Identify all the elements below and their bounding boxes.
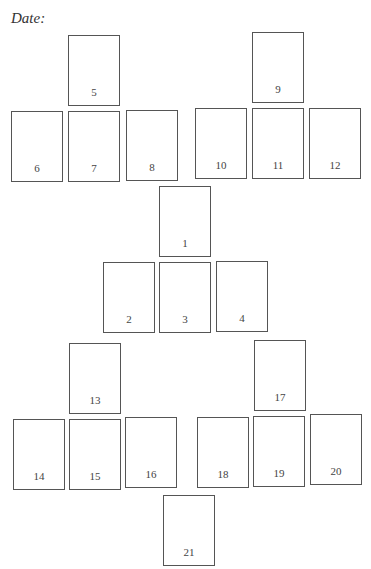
card-position-number: 7 — [69, 162, 119, 174]
card-slot-13[interactable]: 13 — [69, 343, 121, 414]
card-position-number: 8 — [127, 161, 177, 173]
cropped-title — [0, 0, 371, 2]
card-slot-4[interactable]: 4 — [216, 261, 268, 332]
card-slot-6[interactable]: 6 — [11, 111, 63, 182]
card-slot-2[interactable]: 2 — [103, 262, 155, 333]
card-slot-9[interactable]: 9 — [252, 32, 304, 103]
card-slot-12[interactable]: 12 — [309, 108, 361, 179]
card-slot-3[interactable]: 3 — [159, 262, 211, 333]
card-position-number: 21 — [164, 546, 214, 558]
card-position-number: 6 — [12, 162, 62, 174]
card-position-number: 4 — [217, 312, 267, 324]
date-label: Date: — [11, 9, 45, 27]
card-slot-17[interactable]: 17 — [254, 340, 306, 411]
card-slot-7[interactable]: 7 — [68, 111, 120, 182]
card-position-number: 20 — [311, 465, 361, 477]
card-slot-14[interactable]: 14 — [13, 419, 65, 490]
card-position-number: 12 — [310, 159, 360, 171]
card-position-number: 10 — [196, 159, 246, 171]
card-position-number: 15 — [70, 470, 120, 482]
card-slot-18[interactable]: 18 — [197, 417, 249, 488]
card-slot-16[interactable]: 16 — [125, 417, 177, 488]
card-slot-21[interactable]: 21 — [163, 495, 215, 566]
card-position-number: 19 — [254, 467, 304, 479]
card-position-number: 18 — [198, 468, 248, 480]
card-position-number: 11 — [253, 159, 303, 171]
card-position-number: 5 — [69, 86, 119, 98]
card-slot-11[interactable]: 11 — [252, 108, 304, 179]
card-slot-10[interactable]: 10 — [195, 108, 247, 179]
card-slot-5[interactable]: 5 — [68, 35, 120, 106]
card-position-number: 3 — [160, 313, 210, 325]
card-slot-15[interactable]: 15 — [69, 419, 121, 490]
card-position-number: 1 — [160, 237, 210, 249]
card-slot-20[interactable]: 20 — [310, 414, 362, 485]
card-slot-1[interactable]: 1 — [159, 186, 211, 257]
card-position-number: 16 — [126, 468, 176, 480]
card-position-number: 13 — [70, 394, 120, 406]
card-position-number: 9 — [253, 83, 303, 95]
card-position-number: 14 — [14, 470, 64, 482]
card-position-number: 17 — [255, 391, 305, 403]
card-slot-19[interactable]: 19 — [253, 416, 305, 487]
card-position-number: 2 — [104, 313, 154, 325]
card-slot-8[interactable]: 8 — [126, 110, 178, 181]
